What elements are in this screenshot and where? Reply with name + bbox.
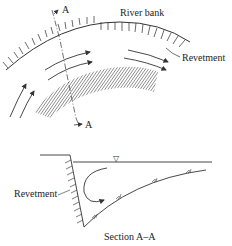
revetment-label-plan: Revetment <box>182 52 226 63</box>
section-view: ▽ Revetment Section A–A <box>14 154 212 242</box>
flow-arrow-icon <box>20 91 34 118</box>
revetment-leader-line <box>166 48 180 57</box>
revetment-wall-hatching <box>65 160 83 223</box>
section-marker-bottom: A <box>85 119 93 130</box>
flow-arrow-icon <box>10 84 26 117</box>
section-arrow-bottom-icon <box>74 124 82 125</box>
riverbed-markers <box>92 169 191 219</box>
river-bend-diagram: Revetment River bank A A <box>0 0 232 246</box>
section-arrow-top-icon <box>54 10 58 14</box>
section-title: Section A–A <box>104 231 156 242</box>
circulation-flow-arrow-icon <box>84 168 107 202</box>
water-level-icon: ▽ <box>113 154 120 163</box>
river-bank-line <box>6 22 190 70</box>
section-marker-top: A <box>62 4 70 15</box>
riverbed-line <box>84 170 206 227</box>
revetment-leader-line-section <box>58 190 70 195</box>
deposition-zone-hatched <box>34 67 158 118</box>
flow-arrow-icon <box>45 52 90 70</box>
plan-view: Revetment River bank A A <box>3 4 226 130</box>
revetment-label-section: Revetment <box>14 188 58 199</box>
river-bank-label: River bank <box>120 7 164 18</box>
